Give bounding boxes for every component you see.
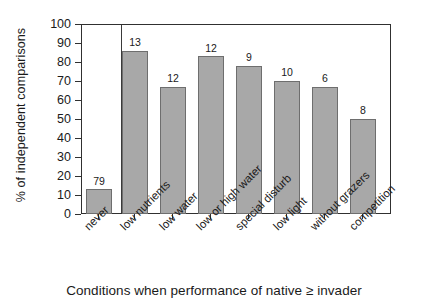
y-tick-label: 20 — [41, 170, 71, 183]
bar-value-label: 12 — [160, 73, 186, 84]
bar-chart: % of independent comparisons 100 90 80 7… — [0, 0, 428, 304]
bar-low-nutrients — [122, 51, 148, 214]
y-tick-mark — [75, 43, 81, 44]
y-tick-mark — [75, 62, 81, 63]
y-tick-mark — [75, 119, 81, 120]
y-tick-label: 100 — [41, 18, 71, 31]
y-tick-mark — [75, 195, 81, 196]
bar-value-label: 79 — [86, 176, 112, 187]
y-tick-label: 10 — [41, 189, 71, 202]
y-tick-mark — [75, 214, 81, 215]
y-tick-label: 90 — [41, 37, 71, 50]
y-tick-mark — [75, 100, 81, 101]
y-tick-mark — [75, 24, 81, 25]
y-tick-mark — [75, 157, 81, 158]
bar-value-label: 9 — [236, 52, 262, 63]
bar-value-label: 13 — [122, 37, 148, 48]
bar-without-grazers — [312, 87, 338, 214]
bar-value-label: 6 — [312, 73, 338, 84]
y-tick-label: 40 — [41, 132, 71, 145]
y-tick-label: 60 — [41, 94, 71, 107]
bar-value-label: 12 — [198, 43, 224, 54]
y-tick-label: 70 — [41, 75, 71, 88]
y-tick-label: 50 — [41, 113, 71, 126]
y-axis-title: % of independent comparisons — [14, 8, 28, 222]
y-tick-mark — [75, 81, 81, 82]
y-tick-label: 80 — [41, 56, 71, 69]
y-tick-mark — [75, 176, 81, 177]
bar-value-label: 10 — [274, 67, 300, 78]
bar-value-label: 8 — [350, 105, 376, 116]
x-axis-title: Conditions when performance of native ≥ … — [0, 283, 428, 298]
y-tick-label: 30 — [41, 151, 71, 164]
bar-low-or-high-water — [198, 56, 224, 214]
y-tick-mark — [75, 138, 81, 139]
y-tick-label: 0 — [41, 208, 71, 221]
